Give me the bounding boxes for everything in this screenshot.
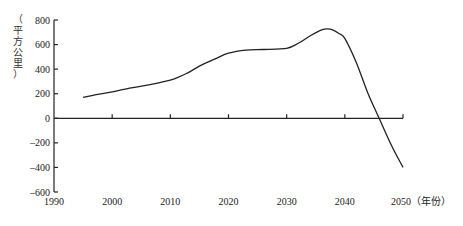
- y-label-char: 方: [12, 36, 24, 47]
- y-tick-label: –400: [29, 162, 50, 173]
- x-tick-label: 2020: [219, 196, 239, 207]
- y-tick-label: 400: [35, 64, 50, 75]
- ticks: 8006004002000–200–400–600199020002010202…: [29, 15, 451, 208]
- y-label-char: ）: [12, 69, 24, 80]
- x-tick-label: 1990: [44, 196, 64, 207]
- y-label-char: （: [12, 14, 24, 25]
- x-tick-label: 2050（年份）: [391, 195, 451, 207]
- y-axis-label: （平方公里）: [12, 14, 24, 80]
- x-tick-label: 2040: [335, 196, 355, 207]
- axes: [54, 20, 403, 192]
- y-tick-label: 600: [35, 39, 50, 50]
- x-tick-label: 2000: [102, 196, 122, 207]
- y-tick-label: 200: [35, 88, 50, 99]
- x-tick-label: 2010: [160, 196, 180, 207]
- line-chart: 8006004002000–200–400–600199020002010202…: [0, 0, 463, 226]
- x-tick-label: 2030: [277, 196, 297, 207]
- y-label-char: 公: [12, 47, 24, 58]
- y-tick-label: 800: [35, 15, 50, 26]
- y-tick-label: –200: [29, 137, 50, 148]
- y-label-char: 里: [12, 58, 24, 69]
- y-tick-label: 0: [45, 113, 50, 124]
- data-line: [83, 29, 403, 168]
- y-label-char: 平: [12, 25, 24, 36]
